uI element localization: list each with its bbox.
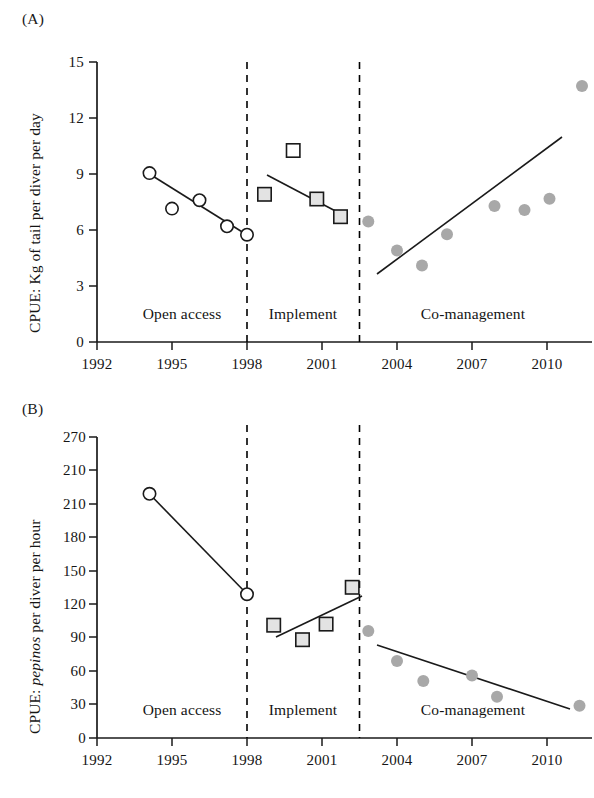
panel-a-trend-comanagement [377, 137, 562, 274]
data-point [267, 619, 280, 632]
data-point [489, 200, 501, 212]
data-point [221, 220, 233, 232]
data-point [319, 617, 332, 630]
data-point [417, 675, 429, 687]
data-point [334, 210, 347, 223]
data-point [574, 700, 586, 712]
data-point [346, 581, 359, 594]
panel-a-series-comanagement [362, 80, 588, 271]
data-point [143, 488, 155, 500]
panel-b-plot [0, 392, 594, 798]
panel-a-series-open-access [143, 167, 253, 241]
data-point [416, 260, 428, 272]
data-point [362, 625, 374, 637]
data-point [143, 167, 155, 179]
panel-a-axes [89, 62, 592, 350]
panel-a-plot [0, 0, 594, 392]
panel-b: (B) CPUE: pepinos per diver per hour 0 3… [0, 392, 594, 798]
panel-a-series-implement [258, 144, 347, 224]
data-point [241, 588, 253, 600]
data-point [193, 194, 205, 206]
panel-b-series-comanagement [362, 625, 585, 712]
panel-b-axes [89, 437, 592, 746]
data-point [576, 80, 588, 92]
panel-a: (A) CPUE: Kg of tail per diver per day 0… [0, 0, 594, 392]
panel-a-trend-implement [267, 175, 335, 211]
data-point [258, 188, 271, 201]
data-point [544, 193, 556, 205]
data-point [466, 670, 478, 682]
data-point [310, 192, 323, 205]
data-point [519, 204, 531, 216]
data-point [287, 144, 300, 157]
panel-b-series-implement [267, 581, 359, 647]
data-point [362, 216, 374, 228]
data-point [491, 691, 503, 703]
data-point [441, 228, 453, 240]
data-point [391, 245, 403, 257]
data-point [391, 655, 403, 667]
data-point [296, 633, 309, 646]
panel-b-trend-open-access [150, 494, 248, 594]
data-point [241, 229, 253, 241]
figure-canvas: (A) CPUE: Kg of tail per diver per day 0… [0, 0, 594, 798]
data-point [166, 202, 178, 214]
